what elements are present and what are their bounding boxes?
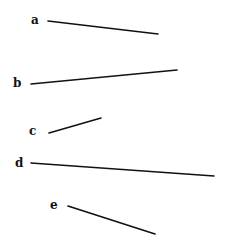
segment-label-a: a: [31, 13, 39, 27]
line-segment-a: [48, 21, 158, 34]
segment-e: e: [50, 198, 155, 234]
segment-label-d: d: [15, 156, 24, 170]
diagram-svg: a b c d e: [0, 0, 228, 250]
segment-d: d: [15, 156, 214, 176]
segment-label-c: c: [29, 124, 36, 138]
segment-b: b: [13, 70, 177, 90]
line-segment-c: [49, 118, 101, 133]
segment-a: a: [31, 13, 158, 34]
segment-c: c: [29, 118, 101, 138]
line-segment-e: [68, 206, 155, 234]
line-segments-diagram: a b c d e: [0, 0, 228, 250]
segment-label-b: b: [13, 76, 21, 90]
segment-label-e: e: [50, 198, 58, 212]
line-segment-b: [31, 70, 177, 84]
line-segment-d: [31, 163, 214, 176]
